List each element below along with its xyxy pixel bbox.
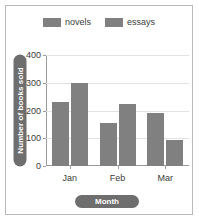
y-tick-mark — [43, 166, 46, 167]
legend-item-novels[interactable]: novels — [43, 17, 91, 27]
y-tick-mark — [43, 55, 46, 56]
y-tick-label: 200 — [26, 106, 41, 116]
legend-label-essays: essays — [127, 17, 155, 27]
legend-label-novels: novels — [65, 17, 91, 27]
legend-swatch-essays — [105, 18, 123, 27]
y-tick-label: 100 — [26, 133, 41, 143]
bar-mar-essays[interactable] — [166, 140, 183, 166]
bar-group: Jan — [52, 55, 88, 166]
legend-item-essays[interactable]: essays — [105, 17, 155, 27]
plot-area: 0100200300400 JanFebMar — [41, 50, 189, 166]
bar-feb-essays[interactable] — [119, 104, 136, 166]
bar-jan-essays[interactable] — [71, 83, 88, 166]
y-tick-mark — [43, 111, 46, 112]
y-tick-label: 300 — [26, 78, 41, 88]
x-axis-title: Month — [75, 195, 139, 208]
y-tick-mark — [43, 83, 46, 84]
x-axis-title-text: Month — [95, 197, 119, 206]
x-tick-mark — [118, 166, 119, 169]
y-axis-title-text: Number of books sold — [16, 67, 25, 153]
y-tick-label: 400 — [26, 50, 41, 60]
y-tick-label: 0 — [36, 161, 41, 171]
plot-inner: 0100200300400 JanFebMar — [46, 55, 189, 166]
x-tick-mark — [165, 166, 166, 169]
x-tick-label-mar: Mar — [157, 173, 173, 183]
y-tick-mark — [43, 138, 46, 139]
chart-frame: novels essays Number of books sold 01002… — [5, 5, 193, 215]
y-axis-title: Number of books sold — [14, 55, 27, 167]
bar-jan-novels[interactable] — [52, 102, 69, 166]
x-tick-mark — [70, 166, 71, 169]
x-tick-label-jan: Jan — [63, 173, 78, 183]
x-tick-label-feb: Feb — [110, 173, 126, 183]
bar-group: Mar — [147, 55, 183, 166]
bar-feb-novels[interactable] — [100, 123, 117, 166]
bar-group: Feb — [100, 55, 136, 166]
legend-swatch-novels — [43, 18, 61, 27]
chart-legend: novels essays — [6, 17, 192, 27]
bar-mar-novels[interactable] — [147, 113, 164, 166]
